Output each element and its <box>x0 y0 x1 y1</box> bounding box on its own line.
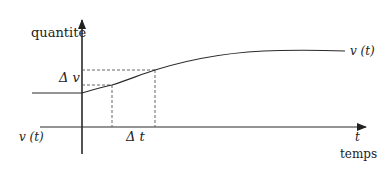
x-axis-symbol: t <box>355 130 360 144</box>
velocity-diagram: quantité Δ v v (t) v (t) Δ t t temps <box>0 0 391 174</box>
dashed-guides <box>82 70 155 127</box>
curve-label-left: v (t) <box>19 130 44 144</box>
curve-label-right: v (t) <box>350 44 375 58</box>
y-axis-label: quantité <box>31 25 86 40</box>
x-axis-label: temps <box>340 147 377 161</box>
delta-v-label: Δ v <box>58 70 81 85</box>
delta-t-label: Δ t <box>125 129 146 144</box>
